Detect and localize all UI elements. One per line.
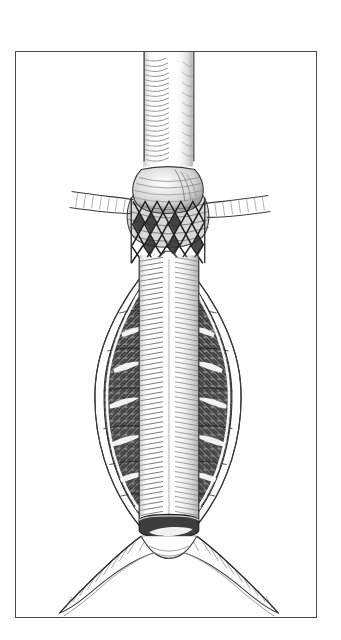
aortic-aneurysm-illustration <box>16 52 316 617</box>
figure-root: Abdominal aortic aneurysm with endovascu… <box>0 0 341 640</box>
plate-border: Abdominal aortic aneurysm with endovascu… <box>15 51 317 618</box>
